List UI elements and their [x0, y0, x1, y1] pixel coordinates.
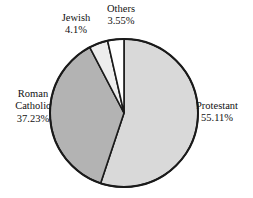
pie-label-jewish-value: 4.1%: [52, 24, 100, 36]
pie-label-roman-catholic-name-line2: Catholic: [2, 100, 64, 112]
pie-label-others: Others 3.55%: [97, 3, 145, 28]
pie-label-protestant-name: Protestant: [196, 100, 238, 112]
pie-label-others-name: Others: [97, 3, 145, 15]
pie-label-others-value: 3.55%: [97, 15, 145, 27]
pie-label-roman-catholic: Roman Catholic 37.23%: [2, 88, 64, 125]
pie-label-protestant: Protestant 55.11%: [196, 100, 238, 125]
pie-chart-figure: Protestant 55.11% Roman Catholic 37.23% …: [0, 0, 253, 198]
pie-label-jewish-name: Jewish: [52, 12, 100, 24]
pie-label-protestant-value: 55.11%: [196, 112, 238, 124]
pie-label-roman-catholic-value: 37.23%: [2, 113, 64, 125]
pie-label-jewish: Jewish 4.1%: [52, 12, 100, 37]
pie-label-roman-catholic-name-line1: Roman: [2, 88, 64, 100]
